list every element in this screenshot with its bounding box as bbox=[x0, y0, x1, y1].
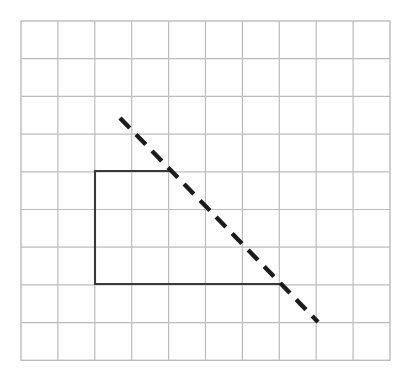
figure-canvas bbox=[0, 0, 408, 376]
canvas-background bbox=[0, 0, 408, 376]
geometry-diagram bbox=[0, 0, 408, 376]
